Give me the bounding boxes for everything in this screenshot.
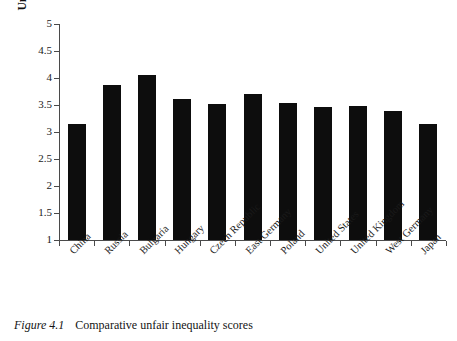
bar	[173, 99, 191, 240]
figure-container: Unfair inequality average score 11.522.5…	[0, 0, 457, 341]
x-axis-tick	[270, 241, 271, 246]
x-axis-tick	[411, 241, 412, 246]
x-axis-tick	[305, 241, 306, 246]
x-axis-tick	[446, 241, 447, 246]
x-axis-tick	[200, 241, 201, 246]
bar	[138, 75, 156, 240]
figure-caption: Figure 4.1Comparative unfair inequality …	[14, 318, 253, 333]
x-axis-tick	[376, 241, 377, 246]
figure-caption-text: Comparative unfair inequality scores	[75, 318, 253, 332]
bar	[103, 85, 121, 240]
bar	[68, 124, 86, 240]
figure-number: Figure 4.1	[14, 318, 64, 332]
x-axis-tick	[129, 241, 130, 246]
bar	[208, 104, 226, 240]
x-axis-tick	[235, 241, 236, 246]
bar-series	[0, 0, 457, 240]
x-axis-tick	[165, 241, 166, 246]
bar	[314, 107, 332, 240]
chart-plot-area: Unfair inequality average score 11.522.5…	[0, 0, 457, 310]
x-axis-tick	[59, 241, 60, 246]
x-axis-tick	[340, 241, 341, 246]
x-axis-tick	[94, 241, 95, 246]
